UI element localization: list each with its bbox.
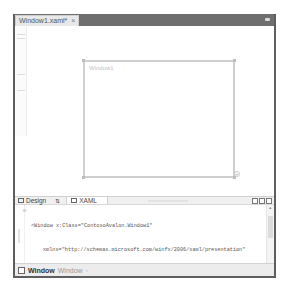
collapse-pane-icon[interactable] <box>266 198 272 204</box>
xaml-icon <box>71 198 77 203</box>
ruler-tick <box>17 34 25 35</box>
close-icon[interactable]: × <box>71 16 75 26</box>
scroll-up-icon[interactable]: ▲ <box>269 206 271 210</box>
zoom-ruler[interactable] <box>15 26 27 136</box>
selected-element-name[interactable]: Window <box>58 267 83 274</box>
toggle-outline-icon[interactable] <box>18 267 25 274</box>
xaml-designer-window: Window1.xaml* × Window1 + Design ⇅ X <box>13 14 276 278</box>
window-menu-icon[interactable] <box>265 18 270 21</box>
tab-xaml-label: XAML <box>79 197 97 204</box>
code-text[interactable]: <Window x:Class="ContosoAvalon.Window1" … <box>31 206 245 292</box>
code-line: xmlns="http://schemas.microsoft.com/winf… <box>31 246 245 254</box>
ruler-tick <box>17 90 25 91</box>
vertical-split-icon[interactable] <box>252 198 258 204</box>
collapse-icon[interactable]: ⊟ <box>23 207 26 214</box>
document-tab-title: Window1.xaml* <box>19 16 67 26</box>
selected-element-type[interactable]: Window <box>28 267 55 274</box>
window-preview[interactable]: Window1 + <box>83 60 235 178</box>
horizontal-split-icon[interactable] <box>259 198 265 204</box>
tab-design-label: Design <box>26 197 46 204</box>
ruler-tick <box>17 74 25 75</box>
editor-gutter <box>15 205 25 265</box>
resize-handle[interactable] <box>82 59 85 62</box>
design-surface[interactable]: Window1 + <box>27 26 274 196</box>
breadcrumb-chevron-icon[interactable]: › <box>86 267 88 273</box>
resize-handle[interactable] <box>233 59 236 62</box>
scroll-thumb[interactable] <box>268 216 273 238</box>
swap-icon: ⇅ <box>55 198 60 204</box>
status-bar: Window Window › <box>15 263 274 276</box>
change-marker <box>18 229 20 243</box>
code-line: <Window x:Class="ContosoAvalon.Window1" <box>31 222 245 230</box>
xaml-editor[interactable]: ⊟ <Window x:Class="ContosoAvalon.Window1… <box>15 205 274 265</box>
pane-layout-buttons <box>252 198 272 204</box>
ruler-tick <box>17 38 25 39</box>
tab-xaml[interactable]: XAML <box>66 197 108 204</box>
window-preview-title: Window1 <box>89 65 114 71</box>
design-icon <box>18 198 24 203</box>
document-tab-bar: Window1.xaml* × <box>15 14 274 26</box>
splitter-grip[interactable] <box>148 200 188 202</box>
resize-handle[interactable] <box>82 176 85 179</box>
tab-design[interactable]: Design <box>15 197 49 204</box>
split-view-bar: Design ⇅ XAML <box>15 196 274 205</box>
resize-grip-icon[interactable]: + <box>234 171 240 177</box>
swap-panes-button[interactable]: ⇅ <box>49 197 66 204</box>
document-tab[interactable]: Window1.xaml* × <box>15 15 79 26</box>
